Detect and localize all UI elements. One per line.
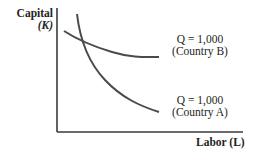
- isoquant-country-a: [77, 14, 159, 112]
- curve-label-country-b: Q = 1,000 (Country B): [160, 33, 240, 57]
- curve-label-country-a: Q = 1,000 (Country A): [160, 94, 240, 118]
- curve-label-country-a-quantity: Q = 1,000: [160, 94, 240, 106]
- y-axis-label-title: Capital: [2, 7, 53, 19]
- curve-label-country-a-name: (Country A): [160, 106, 240, 118]
- isoquant-country-b: [64, 31, 159, 57]
- y-axis-label: Capital (K): [2, 7, 53, 31]
- curve-label-country-b-quantity: Q = 1,000: [160, 33, 240, 45]
- curve-label-country-b-name: (Country B): [160, 45, 240, 57]
- x-axis-label: Labor (L): [196, 136, 245, 148]
- y-axis-label-symbol: (K): [2, 19, 53, 31]
